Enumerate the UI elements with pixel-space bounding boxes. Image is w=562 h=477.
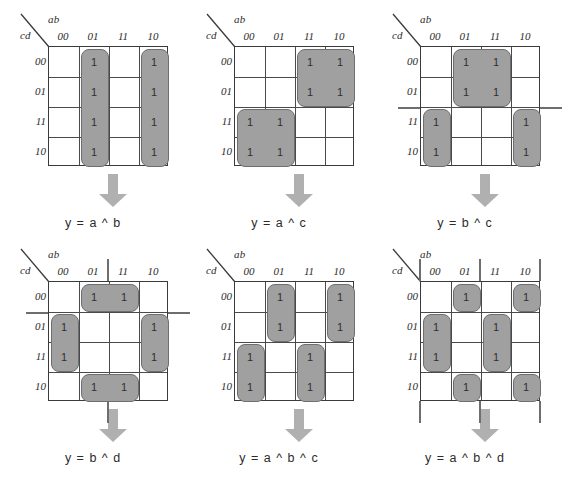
down-arrow-icon (283, 409, 315, 443)
row-header-00-0: 00 (22, 55, 46, 67)
kmap-grid: 11111111 (234, 46, 354, 166)
wrap-indicator-top-2 (539, 259, 541, 281)
cell-one-r3-c3: 1 (511, 137, 541, 167)
wrap-indicator-top-5 (419, 259, 421, 281)
cell-one-r2-c0: 1 (235, 107, 265, 137)
kmap-panel-3: abcd000111100001111011111111y = b ^ c (372, 0, 558, 235)
column-header-11-2: 11 (294, 265, 324, 277)
formula-text: y = b ^ d (0, 451, 186, 465)
axis-label-ab: ab (234, 13, 245, 25)
cell-one-r2-c3: 1 (511, 107, 541, 137)
cell-one-r0-c1: 1 (451, 282, 481, 312)
cell-one-r2-c0: 1 (235, 342, 265, 372)
cell-one-r3-c3: 1 (139, 137, 169, 167)
column-header-00-0: 00 (420, 30, 450, 42)
row-header-11-2: 11 (22, 350, 46, 362)
cell-one-r0-c3: 1 (325, 282, 355, 312)
cell-one-r1-c1: 1 (451, 77, 481, 107)
axis-label-cd: cd (20, 29, 31, 41)
axis-label-ab: ab (48, 13, 59, 25)
column-header-01-1: 01 (450, 30, 480, 42)
kmap-panel-2: abcd000111100001111011111111y = a ^ c (186, 0, 372, 235)
axis-label-ab: ab (420, 248, 431, 260)
column-header-01-1: 01 (264, 265, 294, 277)
wrap-indicator-bottom-4 (539, 401, 541, 423)
wrap-indicator-bottom-7 (419, 401, 421, 423)
down-arrow-icon (469, 174, 501, 208)
cell-one-r3-c1: 1 (79, 372, 109, 402)
column-header-01-1: 01 (78, 265, 108, 277)
row-header-00-0: 00 (22, 290, 46, 302)
column-header-00-0: 00 (234, 30, 264, 42)
cell-one-r3-c1: 1 (265, 137, 295, 167)
formula-text: y = a ^ b ^ c (186, 451, 372, 465)
cell-one-r0-c1: 1 (265, 282, 295, 312)
down-arrow-icon (469, 409, 501, 443)
row-header-11-2: 11 (208, 115, 232, 127)
column-header-11-2: 11 (294, 30, 324, 42)
row-header-00-0: 00 (208, 55, 232, 67)
row-header-10-3: 10 (208, 145, 232, 157)
column-header-01-1: 01 (264, 30, 294, 42)
row-header-01-1: 01 (394, 85, 418, 97)
cell-one-r0-c2: 1 (109, 282, 139, 312)
column-header-01-1: 01 (78, 30, 108, 42)
column-header-10-3: 10 (324, 30, 354, 42)
cell-one-r1-c3: 1 (325, 77, 355, 107)
row-header-01-1: 01 (22, 320, 46, 332)
column-header-11-2: 11 (108, 265, 138, 277)
cell-one-r0-c3: 1 (511, 282, 541, 312)
down-arrow-icon (97, 409, 129, 443)
column-header-10-3: 10 (510, 265, 540, 277)
cell-one-r1-c1: 1 (79, 77, 109, 107)
cell-one-r0-c3: 1 (325, 47, 355, 77)
axis-label-cd: cd (392, 29, 403, 41)
row-header-11-2: 11 (208, 350, 232, 362)
cell-one-r1-c0: 1 (49, 312, 79, 342)
row-header-10-3: 10 (394, 145, 418, 157)
column-header-10-3: 10 (138, 265, 168, 277)
down-arrow-icon (97, 174, 129, 208)
row-header-00-0: 00 (394, 55, 418, 67)
kmap-panel-5: abcd000111100001111011111111y = a ^ b ^ … (186, 235, 372, 477)
cell-one-r1-c2: 1 (481, 312, 511, 342)
cell-one-r2-c1: 1 (79, 107, 109, 137)
row-header-10-3: 10 (22, 145, 46, 157)
column-header-10-3: 10 (138, 30, 168, 42)
cell-one-r3-c0: 1 (421, 137, 451, 167)
row-header-10-3: 10 (22, 380, 46, 392)
row-header-11-2: 11 (394, 115, 418, 127)
column-header-11-2: 11 (480, 265, 510, 277)
row-header-01-1: 01 (208, 320, 232, 332)
axis-label-ab: ab (420, 13, 431, 25)
wrap-indicator-top-1 (107, 259, 109, 281)
wrap-indicator-bottom-8 (479, 401, 481, 423)
axis-label-cd: cd (206, 29, 217, 41)
grid-vline-2 (109, 47, 110, 165)
down-arrow-icon (283, 174, 315, 208)
cell-one-r0-c3: 1 (139, 47, 169, 77)
kmap-grid: 11111111 (420, 281, 540, 401)
cell-one-r3-c1: 1 (79, 137, 109, 167)
formula-text: y = a ^ c (186, 216, 372, 230)
column-header-11-2: 11 (108, 30, 138, 42)
column-header-00-0: 00 (420, 265, 450, 277)
wrap-indicator-left-1 (398, 107, 420, 109)
column-header-10-3: 10 (324, 265, 354, 277)
cell-one-r0-c1: 1 (79, 282, 109, 312)
kmap-panel-1: abcd000111100001111011111111y = a ^ b (0, 0, 186, 235)
kmap-grid: 11111111 (234, 281, 354, 401)
row-header-01-1: 01 (394, 320, 418, 332)
formula-text: y = b ^ c (372, 216, 558, 230)
cell-one-r1-c2: 1 (481, 77, 511, 107)
column-header-00-0: 00 (48, 30, 78, 42)
cell-one-r2-c2: 1 (295, 342, 325, 372)
cell-one-r2-c1: 1 (265, 107, 295, 137)
cell-one-r1-c3: 1 (139, 77, 169, 107)
wrap-indicator-bottom-2 (107, 401, 109, 423)
cell-one-r3-c2: 1 (109, 372, 139, 402)
cell-one-r1-c1: 1 (265, 312, 295, 342)
cell-one-r2-c0: 1 (421, 107, 451, 137)
row-header-01-1: 01 (208, 85, 232, 97)
